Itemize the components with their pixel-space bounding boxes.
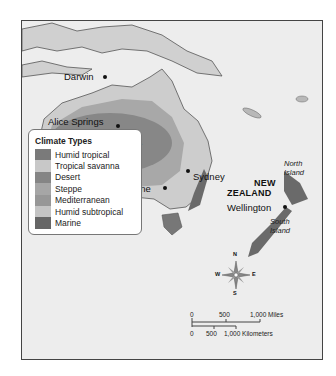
swatch-desert (35, 172, 51, 183)
scale-km-0: 0 (190, 330, 194, 337)
label-alice-springs: Alice Springs (48, 117, 103, 127)
city-dot-darwin (103, 75, 107, 79)
label-zealand: ZEALAND (227, 189, 271, 198)
legend-item: Desert (35, 172, 135, 183)
legend-item: Humid subtropical (35, 206, 135, 217)
scale-miles-500: 500 (219, 311, 230, 318)
compass-rose-icon (222, 261, 250, 289)
legend-item: Steppe (35, 183, 135, 194)
legend-item: Tropical savanna (35, 160, 135, 171)
legend-title: Climate Types (35, 136, 135, 146)
legend: Climate Types Humid tropical Tropical sa… (28, 129, 142, 235)
city-dot-alice-springs (116, 124, 120, 128)
swatch-tropical-savanna (35, 160, 51, 171)
land-island (242, 106, 263, 120)
swatch-humid-subtropical (35, 206, 51, 217)
scale-bar (192, 318, 260, 329)
swatch-mediterranean (35, 195, 51, 206)
legend-item: Humid tropical (35, 149, 135, 160)
compass-e: E (252, 272, 256, 278)
scale-miles-0: 0 (190, 311, 194, 318)
scale-km-500: 500 (206, 330, 217, 337)
land-island (296, 96, 308, 102)
compass-w: W (215, 272, 220, 278)
land-tasmania (162, 213, 182, 235)
label-new: NEW (254, 179, 276, 188)
swatch-steppe (35, 183, 51, 194)
compass-n: N (233, 252, 237, 258)
swatch-marine (35, 217, 51, 228)
label-sydney: Sydney (193, 172, 225, 182)
label-wellington: Wellington (227, 203, 271, 213)
map-frame: Darwin Alice Springs AUSTRALIA Perth Syd… (21, 20, 323, 360)
city-dot-sydney (186, 169, 190, 173)
swatch-humid-tropical (35, 149, 51, 160)
legend-item: Marine (35, 217, 135, 228)
compass-s: S (233, 291, 237, 297)
legend-item: Mediterranean (35, 195, 135, 206)
label-darwin: Darwin (64, 72, 94, 82)
label-north-island: North Island (284, 160, 304, 177)
label-south-island: South Island (270, 218, 290, 235)
city-dot-melbourne (163, 186, 167, 190)
scale-miles-1000: 1,000 Miles (250, 311, 283, 318)
scale-km-1000: 1,000 Kilometers (224, 330, 273, 337)
city-dot-wellington (283, 205, 287, 209)
